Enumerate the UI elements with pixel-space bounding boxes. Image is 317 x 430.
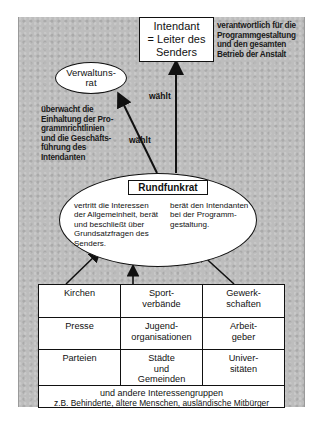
table-row: Kirchen Sport-verbände Gewerk-schaften	[39, 285, 284, 318]
note-line: Einhaltung der Pro-	[41, 115, 113, 125]
rundfunkrat-title: Rundfunkrat	[128, 180, 208, 195]
verwaltungsrat-ellipse: Verwaltuns- rat	[55, 62, 127, 94]
table-cell: Sport-verbände	[121, 285, 203, 317]
footer-line2: z.B. Behinderte, ältere Menschen, auslän…	[39, 398, 284, 408]
arrow-kirchen	[66, 252, 99, 284]
text-line: gestaltung.	[170, 220, 252, 229]
table-cell: Gewerk-schaften	[203, 285, 284, 317]
table-row: Parteien StädteundGemeinden Univer-sität…	[39, 350, 284, 386]
rundfunkrat-ellipse: Rundfunkrat vertritt die Interessen der …	[59, 173, 257, 267]
table-cell: Jugend-organisationen	[121, 318, 203, 349]
label-waehlt-verwaltungsrat: wählt	[129, 135, 151, 145]
intendant-line3: Senders	[140, 46, 213, 59]
table-cell: Arbeit-geber	[203, 318, 284, 349]
text-line: bei der Programm-	[170, 210, 252, 219]
text-line: Grundsatzfragen des	[74, 229, 164, 238]
text-line: vertritt die Interessen	[74, 201, 164, 210]
rundfunkrat-right-text: berät den Intendanten bei der Programm- …	[170, 201, 252, 229]
intendant-line2: = Leiter des	[140, 33, 213, 46]
table-cell: Presse	[39, 318, 121, 349]
note-line: und die Geschäfts-	[41, 134, 113, 144]
note-line: und den gesamten	[217, 40, 296, 50]
note-line: Programmgestaltung	[217, 31, 296, 41]
table-row: Presse Jugend-organisationen Arbeit-gebe…	[39, 318, 284, 350]
note-line: überwacht die	[41, 105, 113, 115]
rundfunkrat-left-text: vertritt die Interessen der Allgemeinhei…	[74, 201, 164, 248]
table-cell: Parteien	[39, 350, 121, 385]
diagram-panel: Intendant = Leiter des Senders verantwor…	[18, 17, 305, 407]
interest-groups-table: Kirchen Sport-verbände Gewerk-schaften P…	[38, 284, 285, 408]
intendant-note: verantwortlich für die Programmgestaltun…	[217, 21, 296, 59]
verwaltungsrat-note: überwacht die Einhaltung der Pro- grammr…	[41, 105, 113, 163]
text-line: berät den Intendanten	[170, 201, 252, 210]
table-footer: und andere Interessengruppen z.B. Behind…	[39, 386, 284, 408]
note-line: grammrichtlinien	[41, 124, 113, 134]
footer-line1: und andere Interessengruppen	[39, 388, 284, 398]
label-waehlt-intendant: wählt	[149, 91, 171, 101]
note-line: führung des	[41, 143, 113, 153]
note-line: Intendanten	[41, 153, 113, 163]
text-line: und beschließt über	[74, 220, 164, 229]
table-cell: StädteundGemeinden	[121, 350, 203, 385]
intendant-line1: Intendant	[140, 20, 213, 33]
intendant-box: Intendant = Leiter des Senders	[139, 17, 214, 62]
note-line: verantwortlich für die	[217, 21, 296, 31]
table-cell: Univer-sitäten	[203, 350, 284, 385]
text-line: der Allgemeinheit, berät	[74, 210, 164, 219]
note-line: Betrieb der Anstalt	[217, 50, 296, 60]
table-cell: Kirchen	[39, 285, 121, 317]
text-line: Senders.	[74, 239, 164, 248]
arrow-to-verwaltungsrat	[119, 95, 157, 173]
verwaltungsrat-line2: rat	[85, 78, 96, 88]
